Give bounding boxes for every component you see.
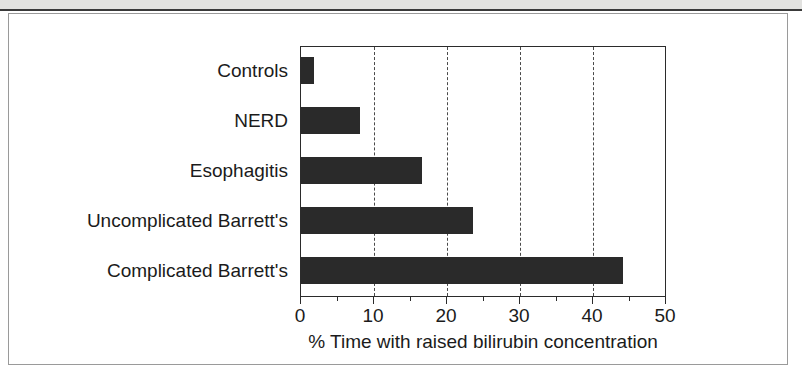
xtick-mark-35 [556, 297, 557, 301]
category-axis-labels: Controls NERD Esophagitis Uncomplicated … [9, 46, 294, 297]
scan-top-rule [0, 9, 802, 11]
bar-esophagitis [301, 157, 422, 184]
figure-root: Controls NERD Esophagitis Uncomplicated … [0, 0, 802, 377]
xtick-mark-50 [665, 297, 666, 304]
xtick-mark-20 [446, 297, 447, 304]
scan-top-band [0, 0, 802, 9]
xtick-mark-0 [300, 297, 301, 304]
bar-series [301, 46, 667, 297]
xtick-mark-25 [483, 297, 484, 301]
xtick-label-40: 40 [581, 305, 602, 327]
bar-complicated-barretts [301, 257, 623, 284]
xtick-mark-5 [337, 297, 338, 301]
x-axis-title: % Time with raised bilirubin concentrati… [300, 331, 666, 353]
xtick-label-10: 10 [362, 305, 383, 327]
bar-controls [301, 57, 314, 84]
category-label-uncomplicated-barretts: Uncomplicated Barrett's [87, 210, 288, 232]
xtick-mark-15 [410, 297, 411, 301]
category-label-complicated-barretts: Complicated Barrett's [107, 260, 288, 282]
xtick-mark-10 [373, 297, 374, 304]
xtick-label-0: 0 [295, 305, 306, 327]
xtick-label-20: 20 [435, 305, 456, 327]
bar-nerd [301, 107, 360, 134]
xtick-label-30: 30 [508, 305, 529, 327]
category-label-nerd: NERD [234, 110, 288, 132]
bar-uncomplicated-barretts [301, 207, 473, 234]
xtick-label-50: 50 [654, 305, 675, 327]
xtick-mark-30 [519, 297, 520, 304]
category-label-controls: Controls [217, 60, 288, 82]
category-label-esophagitis: Esophagitis [190, 160, 288, 182]
figure-frame: Controls NERD Esophagitis Uncomplicated … [8, 13, 788, 365]
xtick-mark-40 [592, 297, 593, 304]
xtick-mark-45 [629, 297, 630, 301]
